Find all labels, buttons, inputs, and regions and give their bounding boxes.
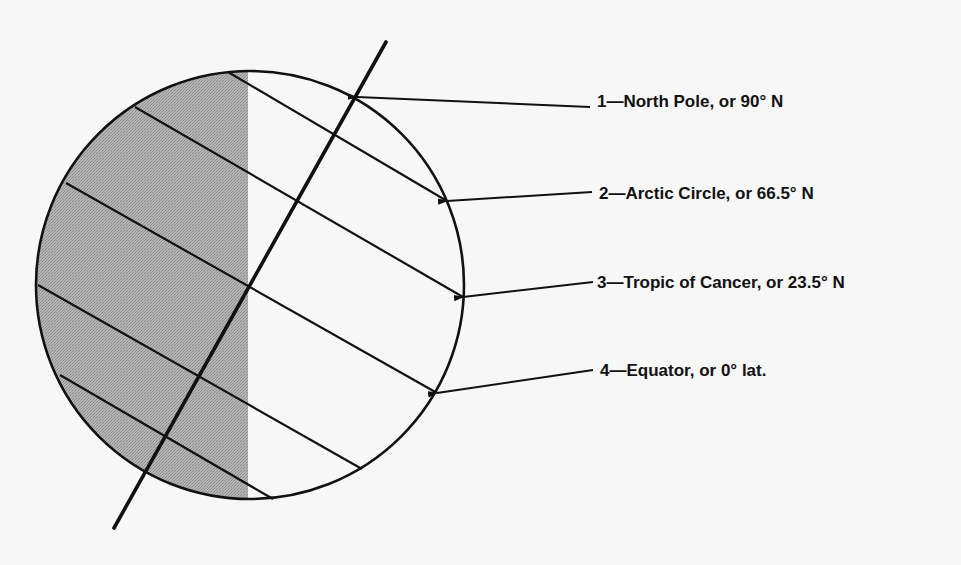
label-arctic-circle: 2—Arctic Circle, or 66.5° N bbox=[599, 184, 814, 204]
callout-arrow bbox=[447, 192, 592, 201]
callout-arrows bbox=[357, 97, 593, 393]
latitude-line bbox=[228, 72, 447, 201]
callout-arrow bbox=[357, 97, 590, 107]
earth-latitude-diagram: 1—North Pole, or 90° N 2—Arctic Circle, … bbox=[0, 0, 961, 565]
label-equator: 4—Equator, or 0° lat. bbox=[600, 361, 766, 381]
label-north-pole: 1—North Pole, or 90° N bbox=[597, 92, 783, 112]
label-tropic-of-cancer: 3—Tropic of Cancer, or 23.5° N bbox=[597, 273, 845, 293]
callout-arrow bbox=[463, 282, 593, 297]
callout-arrow bbox=[437, 370, 593, 393]
